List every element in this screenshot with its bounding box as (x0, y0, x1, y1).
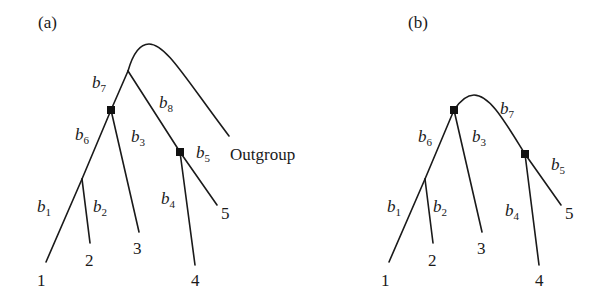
leaf-label-4: 4 (535, 271, 544, 290)
branch-label-b2: b2 (93, 197, 107, 218)
branch-label-b8: b8 (159, 93, 174, 114)
branch-b7-edge (111, 71, 128, 110)
branch-b7-edge (454, 95, 525, 154)
branch-label-b4: b4 (161, 189, 176, 210)
internal-node-square (450, 106, 458, 114)
leaf-label-2: 2 (428, 251, 437, 270)
branch-label-b5: b5 (196, 143, 211, 164)
branch-label-b7: b7 (92, 73, 107, 94)
outgroup-branch-edge (128, 44, 229, 136)
branch-label-b1: b1 (37, 197, 51, 218)
leaf-label-4: 4 (191, 271, 200, 290)
branch-label-b1: b1 (387, 197, 401, 218)
branch-label-b5: b5 (551, 155, 566, 176)
leaf-label-1: 1 (381, 271, 390, 290)
leaf-label-2: 2 (85, 251, 94, 270)
branch-label-b6: b6 (418, 127, 433, 148)
panel-b: (b) b7 b6 b3 b5 b1 b2 b4 1 2 3 4 5 (381, 13, 574, 290)
phylogenetic-trees-figure: (a) b7 b8 b6 b3 b5 b1 b2 b4 Outgroup 1 2… (0, 0, 601, 302)
panel-a-label: (a) (38, 13, 57, 32)
branch-b1-edge (46, 179, 82, 262)
internal-node-square (521, 150, 529, 158)
leaf-label-5: 5 (565, 204, 574, 223)
leaf-label-5: 5 (221, 204, 230, 223)
branch-label-b7: b7 (500, 99, 515, 120)
leaf-label-3: 3 (477, 239, 486, 258)
branch-b1-edge (389, 179, 425, 262)
branch-b2-edge (82, 179, 90, 243)
internal-node-square (107, 106, 115, 114)
leaf-label-1: 1 (37, 271, 46, 290)
branch-label-b3: b3 (131, 127, 146, 148)
branch-label-b3: b3 (472, 127, 487, 148)
leaf-label-3: 3 (133, 239, 142, 258)
branch-label-b6: b6 (75, 125, 90, 146)
branch-label-b4: b4 (505, 201, 520, 222)
outgroup-label: Outgroup (230, 145, 295, 164)
panel-a: (a) b7 b8 b6 b3 b5 b1 b2 b4 Outgroup 1 2… (37, 13, 295, 290)
branch-label-b2: b2 (433, 197, 447, 218)
branch-b2-edge (425, 179, 433, 243)
internal-node-square (176, 148, 184, 156)
panel-b-label: (b) (408, 13, 428, 32)
